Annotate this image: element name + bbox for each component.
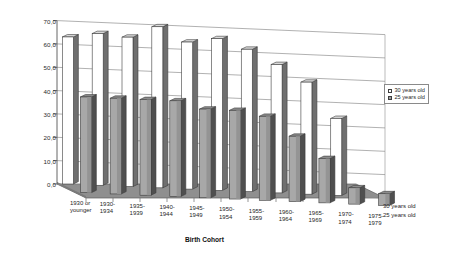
depth-axis-label-30: 30 years old [383, 203, 416, 209]
legend-label: 25 years old [395, 94, 425, 101]
legend-item-25-years[interactable]: 25 years old [388, 94, 425, 101]
x-axis-category-labels: 1930 or younger1930- 19341935- 19391940-… [0, 0, 450, 257]
chart-canvas: 70,0 60,0 50,0 40,0 30,0 20,0 10,0 0,0 1… [0, 0, 450, 257]
x-category-label: 1945- 1949 [189, 205, 204, 219]
legend-item-30-years[interactable]: 30 years old [388, 87, 425, 94]
x-category-label: 1955- 1959 [249, 208, 264, 222]
legend-swatch-icon [388, 89, 392, 93]
x-category-label: 1970- 1974 [338, 211, 353, 225]
x-category-label: 1960- 1964 [279, 209, 294, 223]
x-category-label: 1950- 1954 [219, 206, 234, 220]
x-category-label: 1930 or younger [70, 200, 92, 214]
legend[interactable]: 30 years old 25 years old [384, 84, 429, 104]
x-category-label: 1965- 1969 [308, 210, 323, 224]
x-category-label: 1940- 1944 [159, 204, 174, 218]
x-category-label: 1930- 1934 [100, 201, 115, 215]
legend-label: 30 years old [395, 87, 425, 94]
legend-swatch-icon [388, 96, 392, 100]
depth-axis-label-25: 25 years old [383, 212, 416, 218]
x-category-label: 1975- 1979 [368, 213, 383, 227]
x-axis-title: Birth Cohort [185, 236, 224, 243]
x-category-label: 1935- 1939 [130, 203, 145, 217]
